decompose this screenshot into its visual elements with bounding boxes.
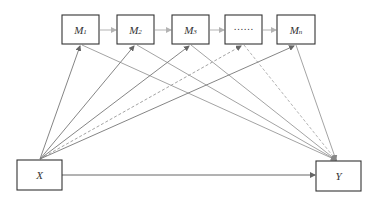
mediation-diagram xyxy=(0,0,375,204)
box-ellipsis xyxy=(225,15,262,44)
arrow-x-m1 xyxy=(40,46,80,159)
arrow-x-ellipsis xyxy=(40,46,241,159)
arrow-mn-y xyxy=(296,45,336,160)
box-m2 xyxy=(117,15,154,44)
arrow-x-m2 xyxy=(40,46,134,159)
node-boxes xyxy=(17,15,361,191)
box-m3 xyxy=(172,15,209,44)
box-x xyxy=(17,160,62,190)
box-y xyxy=(316,161,361,191)
box-mn xyxy=(277,15,315,44)
x-to-mediator-arrows xyxy=(40,46,294,159)
box-m1 xyxy=(62,15,99,44)
